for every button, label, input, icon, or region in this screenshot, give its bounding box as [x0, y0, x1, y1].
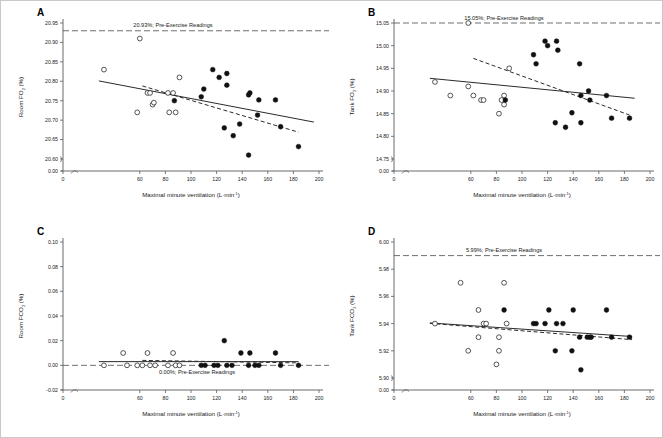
x-tick-label: 140 — [238, 176, 247, 182]
y-tick-label: 20.70 — [45, 117, 58, 123]
data-point-closed — [586, 89, 591, 94]
x-tick-label: 180 — [620, 176, 629, 182]
y-tick-label: 20.90 — [45, 39, 58, 45]
y-tick-label: 5.90 — [379, 375, 389, 381]
x-tick-label: 160 — [263, 176, 272, 182]
panel-d-plot: 6.005.985.965.945.925.900.00060801001201… — [332, 220, 663, 438]
data-point-closed — [246, 363, 251, 368]
data-point-closed — [553, 348, 558, 353]
data-point-closed — [231, 133, 236, 138]
data-point-closed — [247, 351, 252, 356]
data-point-closed — [296, 363, 301, 368]
svg-text:Tank FO2 (%): Tank FO2 (%) — [348, 79, 357, 116]
dashed-regression — [473, 58, 629, 115]
x-tick-label: 140 — [569, 176, 578, 182]
data-point-closed — [255, 113, 260, 118]
y-tick-label: 14.85 — [376, 111, 389, 117]
x-tick-label: 200 — [315, 176, 324, 182]
data-point-closed — [571, 308, 576, 313]
y-tick-label: 14.95 — [376, 65, 389, 71]
data-point-open — [458, 280, 463, 285]
x-tick-label: 160 — [263, 395, 272, 401]
data-point-open — [466, 348, 471, 353]
y-tick-label: 20.75 — [45, 98, 58, 104]
data-point-closed — [215, 363, 220, 368]
data-point-closed — [230, 363, 235, 368]
data-point-closed — [172, 98, 177, 103]
panel-a: 20.9520.9020.8520.8020.7520.7020.6520.60… — [1, 1, 332, 220]
y-tick-label: 6.00 — [379, 239, 389, 245]
x-tick-label: 0 — [62, 176, 65, 182]
data-point-closed — [543, 321, 548, 326]
data-point-closed — [296, 144, 301, 149]
y-tick-label-break: 0.00 — [379, 387, 389, 393]
solid-regression — [430, 323, 632, 337]
data-point-open — [135, 110, 140, 115]
data-point-open — [494, 362, 499, 367]
data-point-closed — [278, 124, 283, 129]
y-tick-label: 20.85 — [45, 59, 58, 65]
x-tick-label: 200 — [315, 395, 324, 401]
x-tick-label: 80 — [163, 395, 169, 401]
data-point-closed — [247, 91, 252, 96]
y-tick-label: 0.06 — [48, 288, 58, 294]
data-point-closed — [627, 335, 632, 340]
svg-text:Room FCO2 (%): Room FCO2 (%) — [17, 294, 26, 339]
x-tick-label: 100 — [187, 395, 196, 401]
data-point-closed — [577, 335, 582, 340]
data-point-open — [481, 98, 486, 103]
x-tick-label: 0 — [62, 395, 65, 401]
y-tick-label: 20.95 — [45, 20, 58, 26]
x-axis-title: Maximal minute ventilation (L·min-1) — [473, 191, 571, 198]
x-axis-title: Maximal minute ventilation (L·min-1) — [473, 410, 571, 417]
data-point-closed — [210, 67, 215, 72]
data-point-closed — [224, 71, 229, 76]
x-tick-label: 120 — [543, 395, 552, 401]
data-point-closed — [563, 125, 568, 130]
data-point-open — [145, 351, 150, 356]
data-point-open — [166, 91, 171, 96]
y-tick-label: 0.04 — [48, 313, 58, 319]
data-point-open — [476, 308, 481, 313]
data-point-closed — [256, 363, 261, 368]
x-axis-title: Maximal minute ventilation (L·min-1) — [142, 410, 240, 417]
y-tick-label: 15.05 — [376, 20, 389, 26]
y-tick-label: 15.00 — [376, 43, 389, 49]
x-tick-label: 100 — [518, 395, 527, 401]
data-point-closed — [627, 116, 632, 121]
data-point-open — [125, 363, 130, 368]
data-point-closed — [577, 61, 582, 66]
x-tick-label: 80 — [494, 176, 500, 182]
x-tick-label: 160 — [594, 395, 603, 401]
y-tick-label: 14.80 — [376, 133, 389, 139]
pre-exercise-annotation: 0.00%; Pre-Exercise Readings — [159, 369, 235, 375]
data-point-closed — [273, 351, 278, 356]
data-point-closed — [224, 83, 229, 88]
data-point-closed — [217, 75, 222, 80]
panel-d: 6.005.985.965.945.925.900.00060801001201… — [332, 220, 663, 438]
panel-letter-c: C — [37, 226, 44, 237]
data-point-open — [121, 351, 126, 356]
data-point-closed — [554, 39, 559, 44]
x-tick-label: 60 — [468, 395, 474, 401]
y-tick-label: 5.98 — [379, 266, 389, 272]
data-point-closed — [222, 126, 227, 131]
data-point-closed — [222, 338, 227, 343]
data-point-open — [448, 93, 453, 98]
pre-exercise-annotation: 20.93%; Pre-Exercise Readings — [133, 22, 212, 28]
data-point-open — [502, 93, 507, 98]
data-point-closed — [546, 308, 551, 313]
x-tick-label: 100 — [518, 176, 527, 182]
data-point-open — [137, 36, 142, 41]
data-point-open — [497, 111, 502, 116]
panel-letter-a: A — [37, 7, 44, 18]
x-tick-label: 160 — [594, 176, 603, 182]
x-tick-label: 80 — [494, 395, 500, 401]
y-tick-label: 5.96 — [379, 293, 389, 299]
data-point-closed — [543, 39, 548, 44]
x-tick-label: 60 — [137, 176, 143, 182]
data-point-open — [466, 21, 471, 26]
data-point-open — [167, 110, 172, 115]
panel-c: 0.100.080.060.040.020.00-0.0206080100120… — [1, 220, 332, 438]
x-axis-title: Maximal minute ventilation (L·min-1) — [142, 191, 240, 198]
